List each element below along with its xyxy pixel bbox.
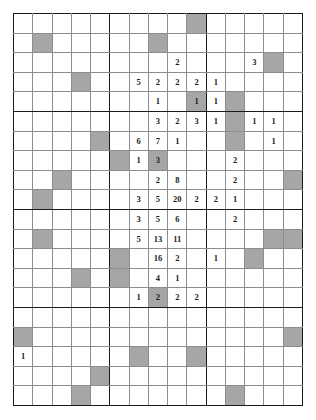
grid-cell[interactable]: 20 — [168, 190, 187, 210]
grid-cell[interactable] — [264, 72, 283, 92]
grid-cell[interactable] — [129, 170, 148, 190]
grid-cell[interactable] — [148, 347, 167, 367]
grid-cell[interactable] — [225, 268, 244, 288]
grid-cell[interactable] — [71, 229, 90, 249]
grid-cell[interactable] — [187, 33, 206, 53]
grid-cell[interactable] — [168, 307, 187, 327]
grid-cell[interactable]: 5 — [129, 229, 148, 249]
grid-cell[interactable] — [129, 327, 148, 347]
grid-cell[interactable] — [14, 386, 33, 406]
grid-cell[interactable] — [187, 131, 206, 151]
grid-cell[interactable] — [245, 347, 264, 367]
grid-cell[interactable] — [206, 288, 225, 308]
grid-cell[interactable] — [52, 14, 71, 34]
grid-cell[interactable] — [283, 249, 302, 269]
grid-cell[interactable] — [225, 14, 244, 34]
grid-cell[interactable] — [129, 268, 148, 288]
grid-cell[interactable] — [52, 92, 71, 112]
grid-cell[interactable] — [187, 386, 206, 406]
grid-cell[interactable]: 1 — [206, 92, 225, 112]
grid-cell[interactable] — [206, 53, 225, 73]
grid-cell[interactable] — [14, 209, 33, 229]
grid-cell[interactable] — [71, 209, 90, 229]
grid-cell[interactable] — [71, 151, 90, 171]
grid-cell[interactable] — [14, 72, 33, 92]
grid-cell[interactable] — [283, 14, 302, 34]
grid-cell[interactable] — [264, 33, 283, 53]
grid-cell[interactable] — [187, 151, 206, 171]
grid-cell[interactable]: 1 — [264, 111, 283, 131]
grid-cell[interactable] — [33, 327, 52, 347]
grid-cell[interactable] — [148, 366, 167, 386]
grid-cell[interactable] — [225, 131, 244, 151]
grid-cell[interactable]: 1 — [187, 92, 206, 112]
grid-cell[interactable] — [110, 151, 129, 171]
grid-cell[interactable] — [52, 288, 71, 308]
grid-cell[interactable] — [168, 366, 187, 386]
grid-cell[interactable] — [206, 268, 225, 288]
grid-cell[interactable] — [52, 33, 71, 53]
grid-cell[interactable] — [206, 33, 225, 53]
grid-cell[interactable] — [148, 33, 167, 53]
grid-cell[interactable]: 3 — [148, 151, 167, 171]
grid-cell[interactable] — [33, 307, 52, 327]
grid-cell[interactable] — [283, 307, 302, 327]
grid-cell[interactable] — [206, 229, 225, 249]
grid-cell[interactable]: 1 — [206, 72, 225, 92]
grid-cell[interactable] — [91, 209, 110, 229]
grid-cell[interactable] — [52, 268, 71, 288]
grid-cell[interactable] — [91, 229, 110, 249]
grid-cell[interactable] — [129, 33, 148, 53]
grid-cell[interactable] — [71, 386, 90, 406]
grid-cell[interactable]: 11 — [168, 229, 187, 249]
grid-cell[interactable]: 2 — [187, 190, 206, 210]
grid-cell[interactable] — [71, 111, 90, 131]
grid-cell[interactable] — [187, 170, 206, 190]
grid-cell[interactable] — [129, 14, 148, 34]
grid-cell[interactable]: 1 — [264, 131, 283, 151]
grid-cell[interactable] — [110, 170, 129, 190]
grid-cell[interactable] — [110, 33, 129, 53]
grid-cell[interactable] — [225, 33, 244, 53]
grid-cell[interactable] — [245, 14, 264, 34]
grid-cell[interactable] — [52, 190, 71, 210]
grid-cell[interactable] — [264, 268, 283, 288]
grid-cell[interactable] — [129, 92, 148, 112]
grid-cell[interactable] — [148, 53, 167, 73]
grid-cell[interactable] — [148, 307, 167, 327]
grid-cell[interactable] — [91, 366, 110, 386]
grid-cell[interactable]: 5 — [148, 209, 167, 229]
grid-cell[interactable] — [71, 190, 90, 210]
grid-cell[interactable] — [110, 229, 129, 249]
grid-cell[interactable] — [187, 14, 206, 34]
grid-cell[interactable]: 1 — [14, 347, 33, 367]
grid-cell[interactable]: 1 — [245, 111, 264, 131]
grid-cell[interactable] — [91, 288, 110, 308]
grid-cell[interactable] — [206, 131, 225, 151]
grid-cell[interactable] — [245, 268, 264, 288]
grid-cell[interactable] — [91, 347, 110, 367]
grid-cell[interactable] — [245, 307, 264, 327]
grid-cell[interactable] — [52, 170, 71, 190]
grid-cell[interactable]: 1 — [206, 111, 225, 131]
grid-cell[interactable] — [245, 92, 264, 112]
grid-cell[interactable] — [129, 53, 148, 73]
grid-cell[interactable] — [245, 170, 264, 190]
grid-cell[interactable]: 1 — [148, 92, 167, 112]
grid-cell[interactable] — [52, 229, 71, 249]
grid-cell[interactable] — [110, 249, 129, 269]
grid-cell[interactable] — [129, 307, 148, 327]
grid-cell[interactable] — [283, 72, 302, 92]
grid-cell[interactable] — [14, 131, 33, 151]
grid-cell[interactable] — [283, 33, 302, 53]
grid-cell[interactable] — [187, 307, 206, 327]
grid-cell[interactable] — [91, 249, 110, 269]
grid-cell[interactable] — [14, 14, 33, 34]
grid-cell[interactable] — [225, 386, 244, 406]
grid-cell[interactable] — [110, 72, 129, 92]
grid-cell[interactable] — [264, 327, 283, 347]
grid-cell[interactable] — [110, 209, 129, 229]
grid-cell[interactable] — [225, 347, 244, 367]
grid-cell[interactable] — [14, 268, 33, 288]
grid-cell[interactable]: 2 — [225, 209, 244, 229]
